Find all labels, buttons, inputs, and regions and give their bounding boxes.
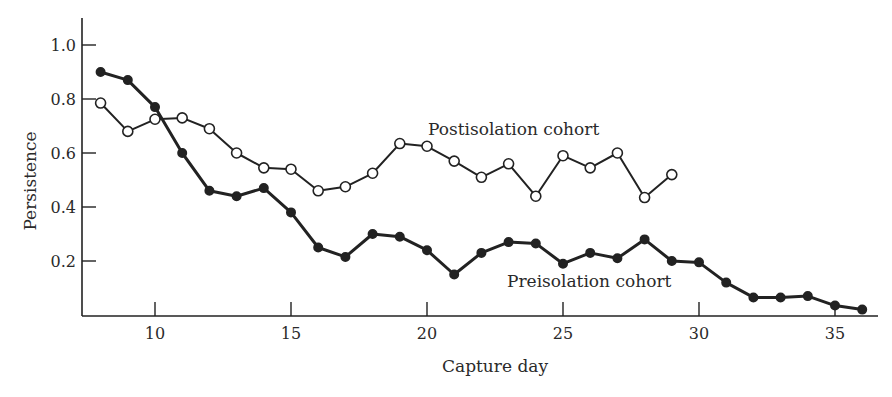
open-circle-marker — [177, 113, 187, 123]
filled-circle-marker — [559, 260, 567, 268]
x-tick-label: 25 — [553, 324, 573, 343]
x-tick-label: 15 — [281, 324, 301, 343]
filled-circle-marker — [287, 208, 295, 216]
y-tick-label: 0.8 — [51, 90, 76, 109]
filled-circle-marker — [722, 278, 730, 286]
open-circle-marker — [286, 164, 296, 174]
filled-circle-marker — [396, 233, 404, 241]
x-axis-label: Capture day — [442, 356, 548, 376]
filled-circle-marker — [151, 103, 159, 111]
filled-circle-marker — [858, 305, 866, 313]
series-layer: Preisolation cohortPostisolation cohort — [96, 68, 867, 314]
open-circle-marker — [232, 148, 242, 158]
open-circle-marker — [313, 186, 323, 196]
y-axis-label: Persistence — [20, 131, 40, 230]
filled-circle-marker — [96, 68, 104, 76]
open-circle-marker — [395, 139, 405, 149]
filled-circle-marker — [423, 246, 431, 254]
preisolation-cohort-series: Preisolation cohort — [96, 68, 866, 314]
filled-circle-marker — [450, 270, 458, 278]
y-tick-label: 0.2 — [51, 252, 76, 271]
x-tick-label: 20 — [417, 324, 437, 343]
open-circle-marker — [585, 163, 595, 173]
filled-circle-marker — [532, 239, 540, 247]
filled-circle-marker — [749, 293, 757, 301]
filled-circle-marker — [831, 301, 839, 309]
open-circle-marker — [123, 126, 133, 136]
open-circle-marker — [640, 193, 650, 203]
open-circle-marker — [476, 172, 486, 182]
open-circle-marker — [422, 141, 432, 151]
persistence-line-chart: 0.20.40.60.81.0101520253035 Preisolation… — [0, 0, 892, 397]
open-circle-marker — [150, 114, 160, 124]
y-tick-label: 1.0 — [51, 36, 76, 55]
filled-circle-marker — [205, 187, 213, 195]
filled-circle-marker — [504, 238, 512, 246]
x-tick-label: 10 — [145, 324, 165, 343]
filled-circle-marker — [124, 76, 132, 84]
preisolation-cohort-label: Preisolation cohort — [507, 271, 672, 291]
filled-circle-marker — [368, 230, 376, 238]
filled-circle-marker — [695, 258, 703, 266]
open-circle-marker — [340, 182, 350, 192]
open-circle-marker — [531, 191, 541, 201]
open-circle-marker — [204, 124, 214, 134]
filled-circle-marker — [341, 253, 349, 261]
filled-circle-marker — [613, 254, 621, 262]
filled-circle-marker — [776, 293, 784, 301]
x-tick-label: 30 — [689, 324, 709, 343]
filled-circle-marker — [178, 149, 186, 157]
open-circle-marker — [96, 98, 106, 108]
filled-circle-marker — [668, 257, 676, 265]
y-tick-label: 0.4 — [51, 198, 76, 217]
y-tick-label: 0.6 — [51, 144, 76, 163]
filled-circle-marker — [804, 292, 812, 300]
filled-circle-marker — [586, 249, 594, 257]
filled-circle-marker — [314, 243, 322, 251]
filled-circle-marker — [260, 184, 268, 192]
open-circle-marker — [558, 151, 568, 161]
open-circle-marker — [368, 168, 378, 178]
open-circle-marker — [667, 170, 677, 180]
filled-circle-marker — [232, 192, 240, 200]
open-circle-marker — [504, 159, 514, 169]
filled-circle-marker — [477, 249, 485, 257]
open-circle-marker — [612, 148, 622, 158]
x-tick-label: 35 — [825, 324, 845, 343]
filled-circle-marker — [640, 235, 648, 243]
postisolation-cohort-label: Postisolation cohort — [428, 119, 599, 139]
preisolation-cohort-line — [101, 72, 863, 310]
open-circle-marker — [259, 163, 269, 173]
open-circle-marker — [449, 156, 459, 166]
